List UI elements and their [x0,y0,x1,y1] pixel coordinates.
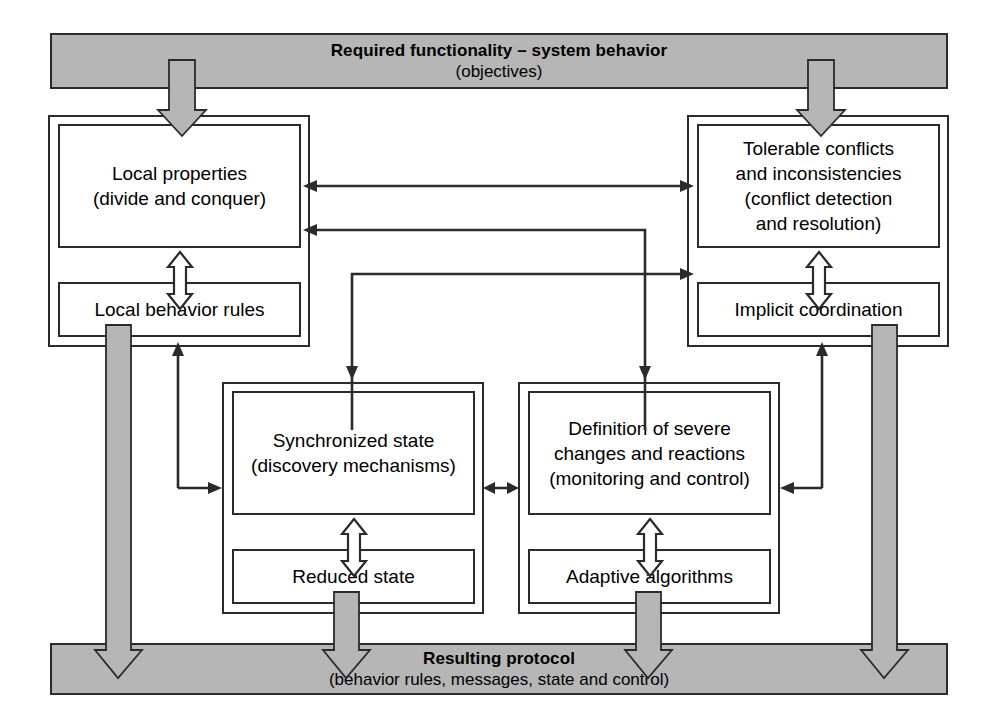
arrowhead-into-definition-box [639,366,651,380]
gray-arrow-down-to-resulting-protocol-right [861,325,908,678]
arrowhead-into-synchronized-state [346,366,358,380]
cell-local-properties: Local properties (divide and conquer) [58,124,301,248]
arrow-feedback-left-column [172,342,222,494]
cell-tolerable-conflicts: Tolerable conflicts and inconsistencies … [697,124,940,248]
diagram-canvas: Required functionality – system behavior… [0,0,992,728]
arrow-synchronized-to-definition [483,482,519,494]
cell-definition-severe-changes: Definition of severe changes and reactio… [528,391,771,515]
resulting-protocol-bar: Resulting protocol (behavior rules, mess… [50,643,948,695]
required-functionality-subtitle: (objectives) [456,61,543,82]
resulting-protocol-title: Resulting protocol [423,648,575,669]
arrow-local-properties-to-tolerable-conflicts [303,180,694,192]
cell-implicit-coordination: Implicit coordination [697,282,940,337]
gray-arrow-down-to-resulting-protocol-left [95,325,142,678]
required-functionality-title: Required functionality – system behavior [331,40,668,61]
resulting-protocol-subtitle: (behavior rules, messages, state and con… [329,669,669,690]
cell-local-behavior-rules: Local behavior rules [58,282,301,337]
arrow-overlay [0,0,992,728]
cell-synchronized-state: Synchronized state (discovery mechanisms… [232,391,475,515]
required-functionality-bar: Required functionality – system behavior… [50,33,948,89]
arrow-feedback-right-column [780,342,828,494]
cell-adaptive-algorithms: Adaptive algorithms [528,549,771,604]
cell-reduced-state: Reduced state [232,549,475,604]
